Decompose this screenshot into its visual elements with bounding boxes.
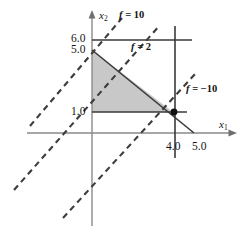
x-axis-title-subscript: 1 [224, 123, 228, 132]
contour-label-f2: f = 2 [131, 42, 151, 53]
y-axis-title-subscript: 2 [104, 14, 108, 23]
y-tick-label-5: 5.0 [71, 44, 85, 56]
y-axis-arrow-icon [89, 10, 96, 19]
plot-svg [0, 0, 251, 235]
figure-canvas: 6.0 5.0 1.0 4.0 5.0 x2 x1 f = 10 f = 2 f… [0, 0, 251, 235]
contour-label-f2-value: = 2 [135, 41, 151, 52]
contour-label-fminus10-value: = −10 [190, 83, 218, 94]
x-tick-label-5: 5.0 [192, 141, 206, 153]
optimal-vertex-dot [171, 109, 178, 116]
contour-label-fminus10: f = −10 [186, 84, 217, 95]
contour-label-f10: f = 10 [119, 10, 144, 21]
contour-label-f10-value: = 10 [123, 9, 145, 20]
y-tick-label-1: 1.0 [71, 106, 85, 118]
y-axis-title: x2 [99, 10, 108, 21]
x-axis-arrow-icon [229, 130, 238, 137]
x-tick-label-4: 4.0 [166, 141, 180, 153]
x-axis-title: x1 [219, 119, 228, 130]
